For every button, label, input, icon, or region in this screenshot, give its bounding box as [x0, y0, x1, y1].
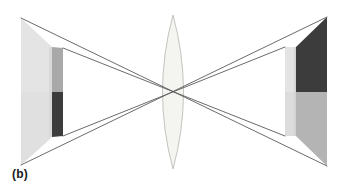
- object-band-top: [52, 47, 63, 92]
- figure-panel-label: (b): [12, 168, 28, 180]
- object-band-bottom: [52, 92, 63, 137]
- object-edge-shadow: [49, 47, 52, 137]
- image-band-bottom: [296, 92, 327, 166]
- image-edge-shadow: [294, 47, 296, 136]
- optics-ray-diagram: [0, 0, 347, 195]
- object-face-light-lower: [21, 92, 52, 165]
- figure-container: (b): [0, 0, 347, 195]
- object-card: [21, 18, 63, 165]
- image-card: [285, 17, 327, 166]
- image-band-top: [296, 17, 327, 92]
